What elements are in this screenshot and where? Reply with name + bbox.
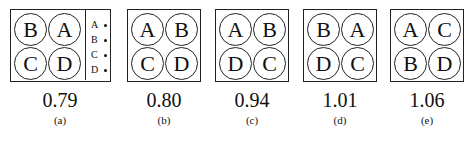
circle: C	[131, 47, 164, 80]
circle: D	[307, 47, 340, 80]
legend-letter: B	[91, 35, 98, 45]
legend-letter: C	[91, 50, 98, 60]
layout-box: B A D C	[303, 9, 377, 82]
legend: A B C D	[85, 10, 111, 80]
panel-label: (a)	[20, 114, 100, 126]
circle: D	[428, 47, 461, 80]
panel-label: (d)	[300, 114, 380, 126]
circle: A	[131, 13, 164, 46]
circle: D	[165, 47, 198, 80]
panel-label: (e)	[387, 114, 464, 126]
circle: A	[48, 13, 81, 46]
legend-letter: D	[91, 65, 98, 75]
score-value: 0.94	[212, 89, 292, 112]
circle: C	[253, 47, 286, 80]
circle: B	[394, 47, 427, 80]
legend-item: C	[91, 50, 107, 60]
dot-icon	[104, 54, 107, 57]
score-value: 0.80	[124, 89, 204, 112]
circle: B	[253, 13, 286, 46]
circle: C	[14, 47, 47, 80]
legend-item: D	[91, 65, 107, 75]
circle: A	[341, 13, 374, 46]
dot-icon	[104, 39, 107, 42]
circle: A	[394, 13, 427, 46]
panel-label: (b)	[124, 114, 204, 126]
circle: B	[307, 13, 340, 46]
circle: C	[428, 13, 461, 46]
circle-grid: A C B D	[394, 13, 462, 81]
dot-icon	[104, 69, 107, 72]
circle: B	[165, 13, 198, 46]
legend-item: B	[91, 35, 107, 45]
score-value: 1.01	[300, 89, 380, 112]
circle-grid: A B C D	[131, 13, 199, 81]
score-value: 1.06	[387, 89, 464, 112]
legend-letter: A	[91, 20, 98, 30]
circle-grid: A B D C	[219, 13, 287, 81]
layout-box: A C B D	[390, 9, 464, 82]
circle: D	[219, 47, 252, 80]
circle: A	[219, 13, 252, 46]
score-value: 0.79	[20, 89, 100, 112]
circle: C	[341, 47, 374, 80]
circle-grid: B A C D	[14, 13, 82, 81]
layout-box: B A C D A B C D	[10, 9, 111, 82]
legend-item: A	[91, 20, 107, 30]
circle-grid: B A D C	[307, 13, 375, 81]
circle: D	[48, 47, 81, 80]
layout-box: A B C D	[127, 9, 201, 82]
layout-box: A B D C	[215, 9, 289, 82]
dot-icon	[104, 24, 107, 27]
panel-label: (c)	[212, 114, 292, 126]
circle: B	[14, 13, 47, 46]
